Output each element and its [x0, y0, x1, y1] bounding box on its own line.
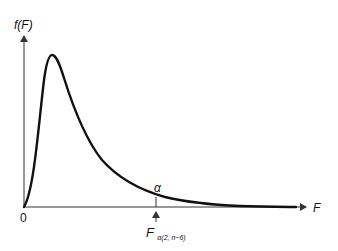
origin-label: 0: [20, 211, 27, 225]
critical-value-main: F: [146, 225, 155, 240]
critical-value-subscript: α(2, n−6): [157, 234, 185, 242]
f-distribution-diagram: f(F) F 0 α F α(2, n−6): [0, 0, 338, 251]
x-axis-label: F: [313, 201, 321, 215]
alpha-label: α: [154, 181, 162, 195]
y-axis-label: f(F): [14, 18, 33, 32]
critical-value-label: F α(2, n−6): [146, 225, 186, 242]
